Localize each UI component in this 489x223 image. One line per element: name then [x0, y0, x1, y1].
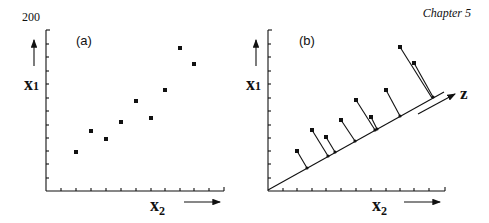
- panel-a-x-label: x2: [150, 195, 165, 216]
- panel-b-y-label: x1: [246, 74, 261, 95]
- panel-b-label: (b): [299, 33, 315, 48]
- projection-lines: [297, 47, 433, 168]
- panel-a-label: (a): [76, 33, 92, 48]
- panel-a-y-label: x1: [24, 74, 39, 95]
- panel-b: [256, 30, 455, 202]
- panel-a: [34, 30, 224, 202]
- points-b: [295, 45, 435, 170]
- z-axis-label: z: [460, 84, 468, 104]
- figure-svg: [0, 0, 489, 223]
- points-a: [74, 46, 196, 154]
- panel-b-x-label: x2: [372, 195, 387, 216]
